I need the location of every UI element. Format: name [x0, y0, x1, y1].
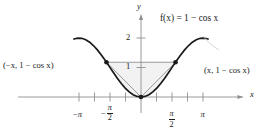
y-tick-label-2: 2 [126, 33, 130, 42]
point-marker-left [104, 60, 109, 65]
point-marker-origin [139, 95, 144, 100]
x-axis-arrow [238, 95, 244, 99]
figure-container: f(x) = 1 − cos x y x (−x, 1 − cos x) (x,… [0, 0, 268, 131]
point-label-right: (x, 1 − cos x) [204, 66, 250, 75]
y-axis-arrow [139, 14, 143, 20]
x-tick-label-7: π [200, 104, 204, 120]
x-tick-label-0: −π [73, 104, 82, 120]
function-label: f(x) = 1 − cos x [160, 14, 218, 23]
x-tick-label-2: −π2 [101, 103, 113, 123]
point-marker-right [173, 60, 178, 65]
y-axis-label: y [137, 2, 141, 11]
x-axis-label: x [250, 90, 254, 99]
point-label-left: (−x, 1 − cos x) [3, 61, 54, 70]
x-tick-label-5: π2 [169, 103, 175, 129]
y-tick-label-1: 1 [126, 62, 130, 71]
